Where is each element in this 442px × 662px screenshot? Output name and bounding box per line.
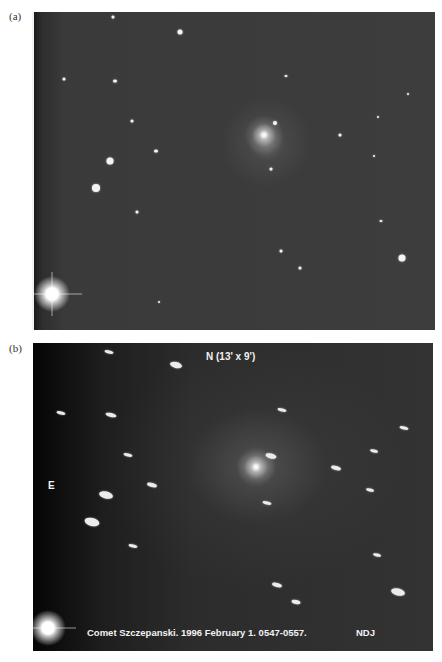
- panel-a-label: (a): [9, 10, 21, 22]
- diffraction-spike: [52, 272, 53, 316]
- image-credit: NDJ: [356, 627, 375, 638]
- star-trail: [331, 465, 342, 471]
- star-trail: [399, 425, 408, 430]
- star-trail: [147, 482, 158, 488]
- star: [270, 168, 273, 171]
- comet-nucleus: [244, 115, 284, 155]
- east-indicator: E: [48, 480, 55, 491]
- star: [63, 78, 66, 81]
- star-trail: [370, 449, 378, 454]
- star-trail: [277, 407, 286, 412]
- diffraction-spike: [33, 628, 76, 629]
- star-trail: [98, 490, 113, 500]
- star-trail: [56, 410, 65, 415]
- star: [273, 121, 277, 125]
- star: [154, 150, 158, 153]
- star: [112, 16, 115, 19]
- image-caption: Comet Szczepanski. 1996 February 1. 0547…: [87, 627, 307, 638]
- star-trail: [373, 553, 381, 558]
- star-trail: [104, 349, 113, 354]
- star: [107, 158, 114, 165]
- star: [131, 120, 134, 123]
- star: [399, 255, 406, 262]
- star-trail: [105, 412, 117, 419]
- star: [339, 134, 342, 137]
- star: [380, 220, 383, 222]
- star: [280, 250, 283, 253]
- star-trail: [291, 599, 301, 605]
- star: [92, 184, 100, 192]
- star-trail: [390, 587, 405, 597]
- star: [158, 301, 160, 303]
- star: [373, 155, 375, 157]
- star-trail: [169, 361, 182, 370]
- north-indicator: N (13' x 9'): [206, 351, 255, 362]
- star-trail: [262, 500, 271, 505]
- star: [178, 30, 183, 35]
- star-trail: [84, 516, 100, 527]
- diffraction-spike: [32, 294, 82, 295]
- star: [285, 75, 288, 77]
- star-trail: [128, 543, 137, 548]
- star: [136, 211, 139, 214]
- panel-a-image: [32, 12, 435, 330]
- panel-b-image: N (13' x 9') E Comet Szczepanski. 1996 F…: [33, 343, 433, 651]
- star: [377, 116, 379, 118]
- star: [407, 93, 409, 95]
- star: [299, 267, 302, 270]
- star-trail: [366, 488, 374, 493]
- panel-b-label: (b): [9, 342, 22, 354]
- star-trail: [123, 452, 132, 457]
- star-trail: [272, 582, 283, 588]
- star: [113, 80, 117, 83]
